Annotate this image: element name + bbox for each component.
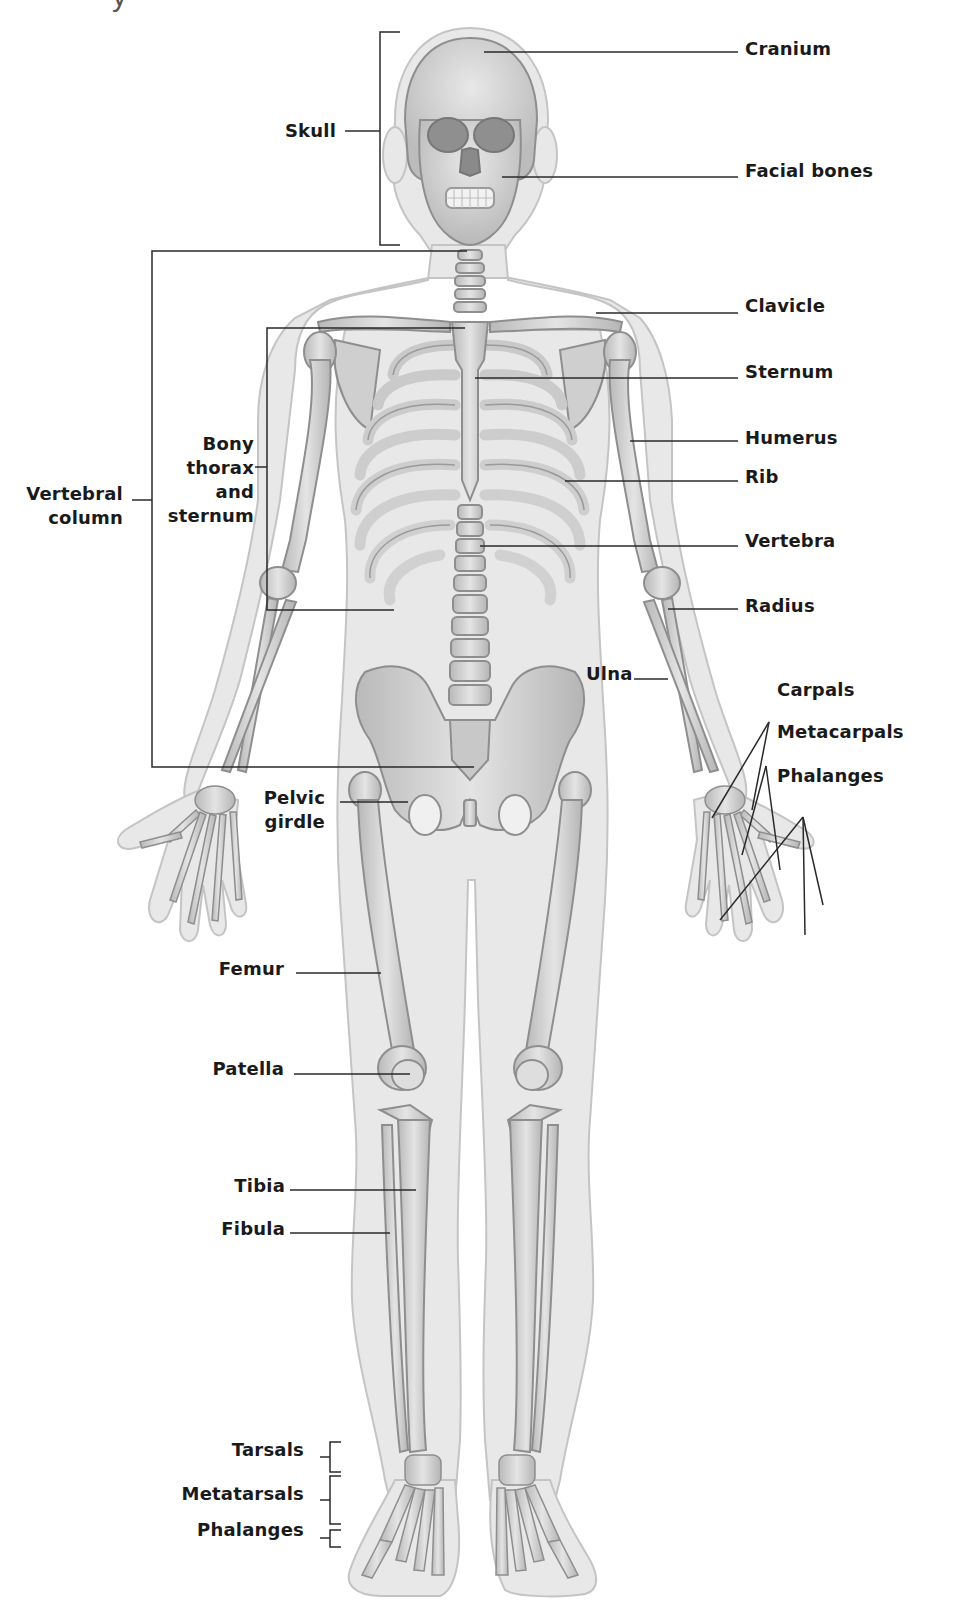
label-humerus: Humerus xyxy=(745,426,838,450)
patella-shape xyxy=(392,1060,424,1090)
label-radius: Radius xyxy=(745,594,815,618)
title-fragment: y xyxy=(112,0,127,12)
label-vertebral-column: Vertebral column xyxy=(26,482,123,530)
label-fibula: Fibula xyxy=(221,1217,285,1241)
label-skull: Skull xyxy=(285,119,336,143)
label-foot-phalanges: Phalanges xyxy=(197,1518,304,1542)
label-line: Bony xyxy=(168,432,254,456)
label-vertebra: Vertebra xyxy=(745,529,835,553)
skeleton-diagram: y xyxy=(0,0,965,1624)
metatarsals-bracket xyxy=(330,1476,341,1524)
label-line: and xyxy=(168,480,254,504)
label-line: sternum xyxy=(168,504,254,528)
skeleton-illustration: y xyxy=(0,0,965,1624)
label-line: Pelvic xyxy=(264,786,325,810)
label-bony-thorax-and-sternum: Bony thorax and sternum xyxy=(168,432,254,528)
label-clavicle: Clavicle xyxy=(745,294,825,318)
label-rib: Rib xyxy=(745,465,779,489)
label-facial-bones: Facial bones xyxy=(745,159,873,183)
label-cranium: Cranium xyxy=(745,37,831,61)
label-tibia: Tibia xyxy=(234,1174,285,1198)
label-metatarsals: Metatarsals xyxy=(182,1482,304,1506)
label-line: column xyxy=(26,506,123,530)
tarsals-bracket xyxy=(330,1442,341,1472)
label-metacarpals: Metacarpals xyxy=(777,720,904,744)
label-femur: Femur xyxy=(219,957,284,981)
label-tarsals: Tarsals xyxy=(232,1438,304,1462)
label-hand-phalanges: Phalanges xyxy=(777,764,884,788)
label-sternum: Sternum xyxy=(745,360,833,384)
label-patella: Patella xyxy=(212,1057,284,1081)
foot-phalanges-bracket xyxy=(330,1530,341,1547)
label-carpals: Carpals xyxy=(777,678,855,702)
clavicle-shape xyxy=(318,317,450,332)
label-line: Vertebral xyxy=(26,482,123,506)
label-line: thorax xyxy=(168,456,254,480)
label-pelvic-girdle: Pelvic girdle xyxy=(264,786,325,834)
label-ulna: Ulna xyxy=(586,662,633,686)
label-line: girdle xyxy=(264,810,325,834)
